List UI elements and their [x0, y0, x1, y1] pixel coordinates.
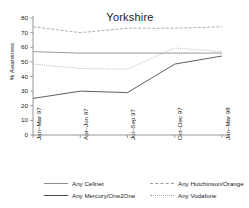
- chart-legend: Any CellnetAny Hutchinson/OrangeAny Merc…: [0, 178, 249, 208]
- legend-item[interactable]: Any Cellnet: [44, 180, 104, 187]
- legend-item[interactable]: Any Hutchinson/Orange: [150, 180, 244, 187]
- series-line: [33, 27, 222, 33]
- legend-label: Any Vodafone: [178, 192, 217, 199]
- legend-label: Any Hutchinson/Orange: [178, 180, 244, 187]
- legend-item[interactable]: Any Vodafone: [150, 192, 217, 199]
- legend-line-icon: [44, 183, 68, 184]
- axis-lines: [30, 16, 228, 138]
- legend-label: Any Mercury/One2One: [72, 192, 135, 199]
- series-line: [33, 48, 222, 69]
- plot-area: [0, 0, 249, 208]
- series-line: [33, 56, 222, 98]
- legend-line-icon: [150, 183, 174, 184]
- series-lines: [33, 27, 222, 99]
- legend-line-icon: [150, 195, 174, 196]
- series-line: [33, 52, 222, 53]
- legend-label: Any Cellnet: [72, 180, 104, 187]
- legend-line-icon: [44, 195, 68, 196]
- legend-item[interactable]: Any Mercury/One2One: [44, 192, 135, 199]
- chart-figure: Yorkshire % Awareness 01020304050607080 …: [0, 0, 249, 208]
